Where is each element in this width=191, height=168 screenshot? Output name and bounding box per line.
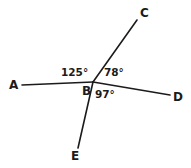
point-label-e: E [71,150,79,162]
point-label-d: D [173,91,183,103]
point-label-a: A [9,79,19,91]
point-label-b: B [82,85,91,97]
geometry-diagram-canvas: A B C D E 125° 78° 97° [0,0,191,168]
angle-label-cbd: 78° [104,67,124,78]
angle-label-abc: 125° [61,67,88,78]
point-label-c: C [140,7,149,19]
angle-diagram-svg [0,0,191,168]
angle-label-dbe: 97° [95,89,115,100]
